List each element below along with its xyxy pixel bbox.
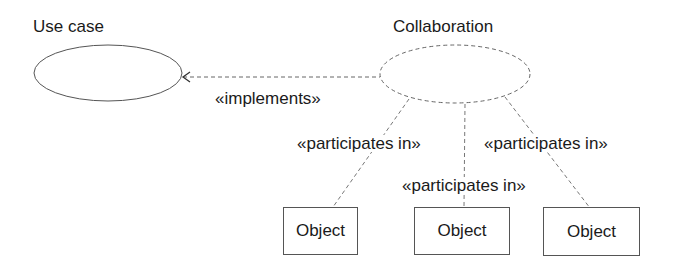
object-box-3[interactable]: Object	[543, 207, 640, 256]
participates-label-1: «participates in»	[297, 135, 421, 152]
use-case-ellipse[interactable]	[34, 45, 182, 101]
collaboration-ellipse[interactable]	[380, 45, 530, 103]
object-box-2[interactable]: Object	[414, 207, 510, 255]
collaboration-title: Collaboration	[393, 18, 493, 35]
participates-connector-1	[333, 99, 409, 207]
participates-label-3: «participates in»	[484, 135, 608, 152]
object-label: Object	[296, 221, 345, 241]
object-label: Object	[567, 222, 616, 242]
participates-label-2: «participates in»	[402, 177, 526, 194]
implements-label: «implements»	[215, 90, 321, 107]
use-case-title: Use case	[33, 18, 104, 35]
object-label: Object	[437, 221, 486, 241]
object-box-1[interactable]: Object	[283, 207, 358, 255]
